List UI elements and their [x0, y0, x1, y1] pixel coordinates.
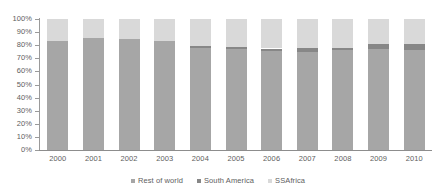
y-axis-tick-label: 100%: [0, 15, 32, 23]
bar-segment[interactable]: [297, 52, 318, 150]
y-axis-tick-label: 80%: [0, 41, 32, 49]
bar-segment[interactable]: [261, 49, 282, 52]
bar-group[interactable]: [297, 19, 318, 150]
y-axis-tick-mark: [35, 98, 39, 99]
bar-segment[interactable]: [154, 41, 175, 150]
legend-item[interactable]: South America: [197, 176, 254, 185]
bar-group[interactable]: [47, 19, 68, 150]
bar-segment[interactable]: [368, 44, 389, 49]
bar-group[interactable]: [368, 19, 389, 150]
y-axis-tick-mark: [35, 85, 39, 86]
chart-legend: Rest of worldSouth AmericaSSAfrica: [0, 176, 436, 185]
bar-segment[interactable]: [332, 50, 353, 150]
bar-segment[interactable]: [404, 19, 425, 44]
bar-segment[interactable]: [404, 50, 425, 150]
y-axis-tick-mark: [35, 150, 39, 151]
bar-segment[interactable]: [119, 39, 140, 150]
bar-segment[interactable]: [226, 19, 247, 47]
x-axis-tick-label: 2008: [323, 154, 363, 163]
bar-segment[interactable]: [190, 46, 211, 48]
x-axis-tick-label: 2005: [216, 154, 256, 163]
legend-square-marker-icon: [197, 179, 201, 183]
bar-stack: [47, 19, 68, 150]
bar-segment[interactable]: [368, 19, 389, 44]
bar-group[interactable]: [154, 19, 175, 150]
x-axis-tick-label: 2002: [109, 154, 149, 163]
x-axis-tick-label: 2000: [38, 154, 78, 163]
y-axis-tick-mark: [35, 32, 39, 33]
bar-segment[interactable]: [190, 19, 211, 46]
bar-segment[interactable]: [332, 48, 353, 51]
bar-segment[interactable]: [83, 19, 104, 38]
y-axis-tick-label: 40%: [0, 94, 32, 102]
bar-stack: [119, 19, 140, 150]
y-axis-tick-label: 90%: [0, 28, 32, 36]
y-axis-tick-mark: [35, 71, 39, 72]
bar-group[interactable]: [83, 19, 104, 150]
bar-stack: [190, 19, 211, 150]
bar-segment[interactable]: [190, 48, 211, 150]
legend-item[interactable]: Rest of world: [131, 176, 183, 185]
bar-segment[interactable]: [368, 49, 389, 150]
bar-group[interactable]: [119, 19, 140, 150]
bar-segment[interactable]: [47, 41, 68, 150]
legend-item-label: Rest of world: [138, 176, 183, 185]
y-axis-tick-label: 50%: [0, 81, 32, 89]
bar-segment[interactable]: [297, 48, 318, 52]
x-axis-tick-label: 2006: [252, 154, 292, 163]
y-axis-tick-mark: [35, 124, 39, 125]
bar-group[interactable]: [226, 19, 247, 150]
y-axis-tick-label: 0%: [0, 146, 32, 154]
bar-group[interactable]: [404, 19, 425, 150]
legend-item-label: South America: [204, 176, 254, 185]
y-axis-tick-label: 30%: [0, 107, 32, 115]
x-axis-tick-label: 2004: [180, 154, 220, 163]
y-axis-tick-label: 10%: [0, 133, 32, 141]
legend-square-marker-icon: [131, 179, 135, 183]
bar-group[interactable]: [332, 19, 353, 150]
x-axis-line: [39, 150, 432, 151]
y-axis-tick-mark: [35, 19, 39, 20]
legend-item[interactable]: SSAfrica: [268, 176, 305, 185]
bar-segment[interactable]: [261, 51, 282, 150]
stacked-bar-chart: 100%90%80%70%60%50%40%30%20%10%0% 200020…: [0, 0, 436, 196]
y-axis-tick-label: 60%: [0, 67, 32, 75]
y-axis-tick-label: 20%: [0, 120, 32, 128]
bar-group[interactable]: [261, 19, 282, 150]
bar-stack: [261, 19, 282, 150]
bar-segment[interactable]: [119, 19, 140, 39]
legend-square-marker-icon: [268, 179, 272, 183]
y-axis-tick-mark: [35, 45, 39, 46]
y-axis-tick-mark: [35, 58, 39, 59]
bar-segment[interactable]: [226, 47, 247, 49]
bar-segment[interactable]: [226, 49, 247, 150]
plot-area: [40, 19, 432, 150]
y-axis-tick-label: 70%: [0, 54, 32, 62]
bar-segment[interactable]: [297, 19, 318, 48]
x-axis-tick-label: 2003: [145, 154, 185, 163]
bar-segment[interactable]: [404, 44, 425, 50]
x-axis-tick-label: 2010: [394, 154, 434, 163]
bar-segment[interactable]: [332, 19, 353, 48]
bar-stack: [368, 19, 389, 150]
bar-segment[interactable]: [154, 19, 175, 41]
y-axis-tick-mark: [35, 137, 39, 138]
bar-group[interactable]: [190, 19, 211, 150]
bar-segment[interactable]: [83, 38, 104, 150]
legend-item-label: SSAfrica: [275, 176, 305, 185]
bar-stack: [83, 19, 104, 150]
x-axis-tick-label: 2007: [287, 154, 327, 163]
bar-stack: [332, 19, 353, 150]
bar-stack: [154, 19, 175, 150]
bar-segment[interactable]: [261, 19, 282, 48]
bar-stack: [226, 19, 247, 150]
x-axis-tick-label: 2001: [73, 154, 113, 163]
bar-segment[interactable]: [47, 19, 68, 41]
x-axis-tick-label: 2009: [359, 154, 399, 163]
bar-stack: [297, 19, 318, 150]
y-axis-tick-mark: [35, 111, 39, 112]
bar-stack: [404, 19, 425, 150]
